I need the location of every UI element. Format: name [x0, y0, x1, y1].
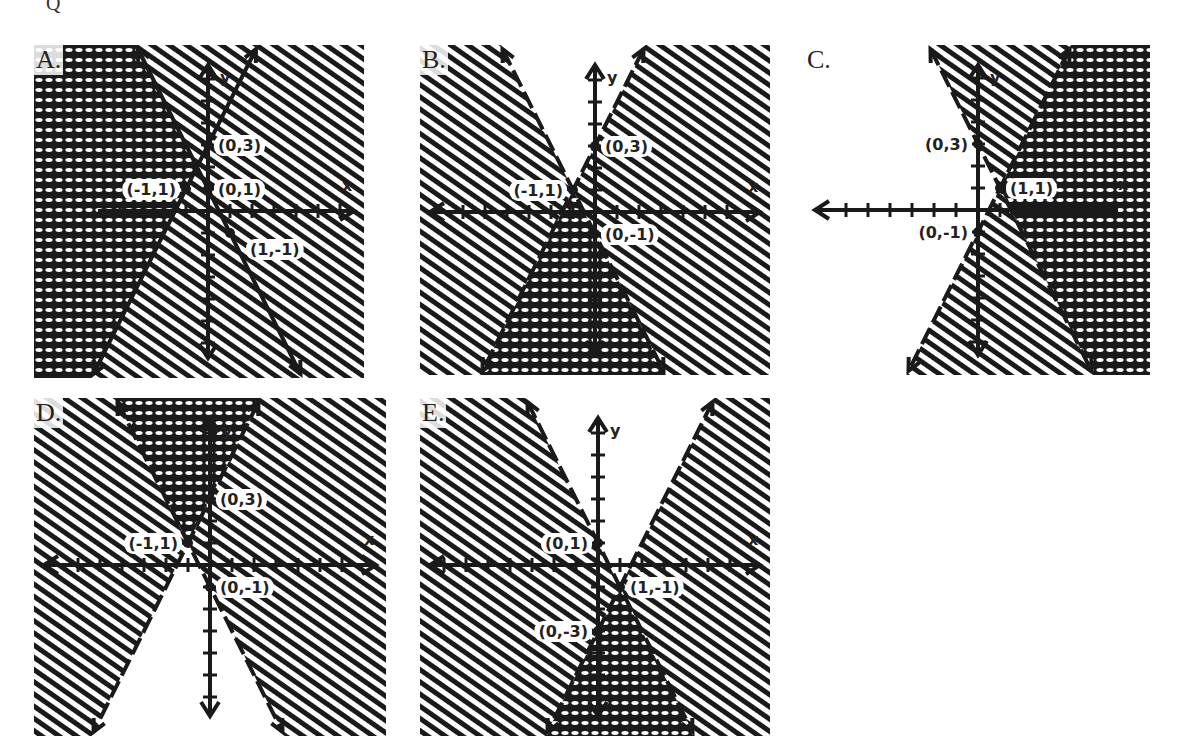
point-label: (0,-1) — [605, 225, 655, 244]
x-axis-label: x — [1118, 175, 1129, 194]
plotted-point — [203, 184, 213, 194]
graph-option-a[interactable]: xy(0,3)(0,1)(-1,1)(1,-1) A. — [34, 45, 364, 378]
point-label: (0,-3) — [538, 622, 588, 641]
graph-option-c[interactable]: xy(0,3)(1,1)(0,-1) C. — [805, 45, 1150, 375]
point-label: (-1,1) — [126, 180, 176, 199]
plotted-point — [593, 626, 603, 636]
x-axis-label: x — [364, 530, 375, 549]
point-label: (1,-1) — [630, 578, 680, 597]
x-axis-label: x — [748, 177, 759, 196]
y-axis-label: y — [607, 68, 618, 87]
point-label: (0,3) — [218, 136, 261, 155]
plotted-point — [590, 141, 600, 151]
graph-c-canvas: xy(0,3)(1,1)(0,-1) — [805, 45, 1150, 375]
y-axis-label: y — [610, 421, 621, 440]
point-label: (0,-1) — [220, 578, 270, 597]
plotted-point — [973, 139, 983, 149]
point-label: (-1,1) — [513, 181, 563, 200]
graph-option-d[interactable]: xy(0,3)(-1,1)(0,-1) D. — [34, 398, 386, 736]
plotted-point — [225, 228, 235, 238]
option-letter-b: B. — [420, 45, 448, 75]
plotted-point — [183, 538, 193, 548]
plotted-point — [205, 494, 215, 504]
plotted-point — [181, 184, 191, 194]
plotted-point — [615, 582, 625, 592]
graph-d-canvas: xy(0,3)(-1,1)(0,-1) — [34, 398, 386, 736]
point-label: (0,3) — [925, 135, 968, 154]
y-axis-label: y — [222, 421, 233, 440]
question-mark-fragment: Q — [46, 0, 60, 15]
x-axis-label: x — [748, 530, 759, 549]
point-label: (0,1) — [545, 534, 588, 553]
point-label: (-1,1) — [128, 534, 178, 553]
plotted-point — [203, 140, 213, 150]
option-letter-c: C. — [805, 45, 833, 75]
plotted-point — [593, 538, 603, 548]
y-axis-label: y — [220, 68, 231, 87]
option-letter-a: A. — [34, 45, 63, 75]
point-label: (0,1) — [218, 180, 261, 199]
plotted-point — [995, 183, 1005, 193]
plotted-point — [973, 227, 983, 237]
graph-option-b[interactable]: xy(0,3)(-1,1)(0,-1) B. — [420, 45, 770, 375]
point-label: (0,-1) — [918, 223, 968, 242]
option-letter-e: E. — [420, 398, 446, 428]
point-label: (1,1) — [1010, 179, 1053, 198]
x-axis-label: x — [342, 176, 353, 195]
plotted-point — [568, 185, 578, 195]
y-axis-label: y — [990, 68, 1001, 87]
graph-a-canvas: xy(0,3)(0,1)(-1,1)(1,-1) — [34, 45, 364, 378]
graph-option-e[interactable]: xy(0,1)(1,-1)(0,-3) E. — [420, 398, 770, 736]
plotted-point — [590, 229, 600, 239]
plotted-point — [205, 582, 215, 592]
point-label: (0,3) — [605, 137, 648, 156]
point-label: (0,3) — [220, 490, 263, 509]
option-letter-d: D. — [34, 398, 63, 428]
graph-e-canvas: xy(0,1)(1,-1)(0,-3) — [420, 398, 770, 736]
point-label: (1,-1) — [250, 240, 300, 259]
graph-b-canvas: xy(0,3)(-1,1)(0,-1) — [420, 45, 770, 375]
